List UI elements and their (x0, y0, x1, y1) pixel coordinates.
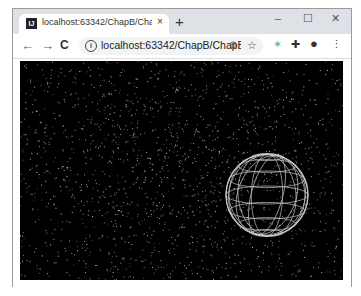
url-text[interactable]: localhost:63342/ChapB/ChapB... (101, 39, 241, 51)
bookmark-star-icon[interactable]: ☆ (247, 39, 257, 52)
maximize-button[interactable]: ☐ (303, 12, 313, 25)
extension-icon[interactable]: ✶ (273, 38, 282, 51)
tab-title: localhost:63342/ChapB/ChapB (42, 17, 152, 27)
zoom-icon[interactable]: ⊕ (229, 39, 237, 50)
menu-icon[interactable]: ⋮ (331, 38, 342, 51)
minimize-button[interactable]: – (275, 12, 281, 24)
favicon-icon: IJ (26, 18, 37, 29)
info-icon[interactable]: i (85, 40, 97, 52)
extensions-puzzle-icon[interactable]: ✚ (291, 38, 300, 51)
address-bar[interactable]: i localhost:63342/ChapB/ChapB... ⊕ ☆ (79, 37, 263, 55)
browser-window: IJ localhost:63342/ChapB/ChapB × + – ☐ ✕… (12, 8, 352, 287)
browser-tab[interactable]: IJ localhost:63342/ChapB/ChapB × (19, 14, 169, 34)
particle-scene (20, 61, 343, 280)
forward-button[interactable]: → (41, 38, 54, 53)
profile-icon[interactable]: ● (310, 36, 318, 51)
webgl-canvas[interactable] (20, 61, 343, 280)
reload-button[interactable]: C (60, 38, 69, 52)
browser-toolbar: ← → C i localhost:63342/ChapB/ChapB... ⊕… (13, 34, 351, 59)
back-button[interactable]: ← (21, 38, 34, 53)
page-viewport (13, 59, 351, 287)
close-tab-icon[interactable]: × (157, 16, 163, 27)
close-window-button[interactable]: ✕ (331, 12, 340, 25)
tab-bar: IJ localhost:63342/ChapB/ChapB × + – ☐ ✕ (13, 9, 351, 34)
new-tab-button[interactable]: + (175, 13, 184, 30)
